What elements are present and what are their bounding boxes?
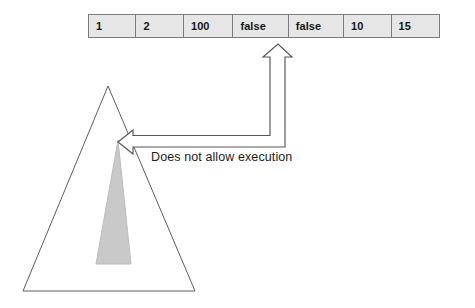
array-cell-2[interactable]: 100 <box>184 15 233 37</box>
array-cell-6[interactable]: 15 <box>392 15 439 37</box>
annotation-label: Does not allow execution <box>151 150 292 164</box>
array-cell-0[interactable]: 1 <box>89 15 136 37</box>
array-cell-1[interactable]: 2 <box>136 15 183 37</box>
array-row: 12100falsefalse1015 <box>88 14 440 38</box>
array-cell-4[interactable]: false <box>289 15 344 37</box>
array-cell-3[interactable]: false <box>233 15 288 37</box>
array-cell-5[interactable]: 10 <box>344 15 391 37</box>
elbow-block-arrow <box>118 44 292 154</box>
